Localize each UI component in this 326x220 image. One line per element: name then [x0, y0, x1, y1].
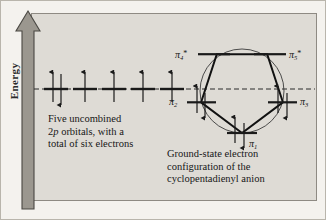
label-pi-2: π2	[169, 96, 178, 108]
label-pi-3: π3	[300, 96, 309, 108]
left-caption-rest: orbitals, with a	[59, 126, 124, 137]
figure-panel: Energy	[0, 0, 326, 220]
left-caption-line2: 2p orbitals, with a	[48, 126, 168, 139]
left-caption: Five uncombined 2p orbitals, with a tota…	[48, 113, 168, 151]
orbital-diagram: π4* π5* π2 π3 π1	[1, 1, 326, 220]
right-caption-line2: configuration of the	[167, 161, 319, 174]
orbital-labels: π4* π5* π2 π3 π1	[169, 49, 309, 150]
left-caption-line1: Five uncombined	[48, 113, 168, 126]
label-pi-5-star: π5*	[289, 49, 301, 61]
right-caption-line3: cyclopentadienyl anion	[167, 173, 319, 186]
frost-circle-group	[187, 49, 297, 148]
frost-circle	[200, 49, 284, 133]
right-caption-line1: Ground-state electron	[167, 148, 319, 161]
left-caption-line3: total of six electrons	[48, 138, 168, 151]
right-caption: Ground-state electron configuration of t…	[167, 148, 319, 186]
label-pi-4-star: π4*	[175, 49, 187, 61]
